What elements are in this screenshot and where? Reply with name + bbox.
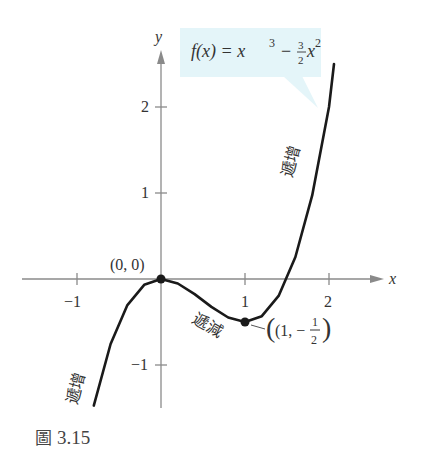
x-tick-neg1: −1 (64, 293, 81, 310)
y-tick-neg1: −1 (131, 356, 148, 373)
x-tick-1: 1 (241, 293, 249, 310)
origin-label: (0, 0) (110, 256, 145, 274)
svg-text:2: 2 (311, 333, 317, 347)
svg-text:3: 3 (269, 36, 275, 50)
figure-3-15: x y −1 1 2 2 1 −1 (0, 0) ( (1, − 1 2 ) f… (0, 0, 437, 456)
caption-prefix: 圖 (35, 428, 52, 448)
increasing-right-label: 遞增 (277, 144, 304, 180)
y-axis-label: y (153, 28, 163, 46)
svg-text:−: − (281, 41, 291, 61)
caption-number: 3.15 (57, 427, 90, 448)
origin-point (157, 275, 166, 284)
svg-text:3: 3 (298, 39, 304, 51)
y-tick-2: 2 (141, 98, 149, 115)
y-axis (155, 50, 167, 408)
svg-text:): ) (322, 312, 331, 343)
y-tick-1: 1 (141, 184, 149, 201)
svg-text:(1, −: (1, − (275, 322, 305, 340)
local-min-label: ( (1, − 1 2 ) (266, 312, 331, 347)
min-leader-line (251, 325, 265, 329)
x-tick-2: 2 (324, 293, 332, 310)
svg-text:2: 2 (315, 36, 321, 50)
function-curve (94, 64, 334, 406)
svg-text:(: ( (266, 312, 275, 343)
local-min-point (241, 318, 250, 327)
x-axis-label: x (388, 270, 396, 287)
increasing-left-label: 遞增 (62, 371, 89, 407)
x-axis (22, 273, 384, 285)
figure-caption: 圖3.15 (35, 424, 90, 449)
svg-text:2: 2 (298, 54, 304, 66)
svg-text:f(x) = x: f(x) = x (191, 41, 245, 62)
svg-text:x: x (306, 41, 315, 61)
svg-text:1: 1 (312, 315, 318, 329)
